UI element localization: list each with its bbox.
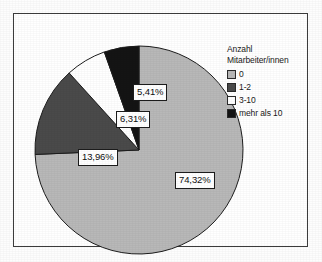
legend-swatch-icon [227, 70, 236, 79]
legend: Anzahl Mitarbeiter/innen 01-23-10mehr al… [227, 44, 319, 120]
legend-item-3-10: 3-10 [227, 94, 319, 106]
legend-swatch-icon [227, 96, 236, 105]
legend-item-1-2: 1-2 [227, 81, 319, 93]
legend-item-mehr-als-10: mehr als 10 [227, 107, 319, 119]
legend-swatch-icon [227, 109, 236, 118]
pie-slices [35, 46, 243, 254]
legend-item-0: 0 [227, 68, 319, 80]
legend-title-line-2: Mitarbeiter/innen [227, 55, 319, 66]
slice-label-3-10: 6,31% [116, 111, 150, 128]
pie-svg [34, 45, 244, 255]
legend-item-label: mehr als 10 [239, 109, 282, 118]
slice-label-0: 74,32% [175, 172, 215, 189]
legend-title-line-1: Anzahl [227, 44, 319, 55]
slice-label-mehr-als-10: 5,41% [133, 84, 167, 101]
pie-chart-figure: 74,32% 13,96% 6,31% 5,41% Anzahl Mitarbe… [0, 0, 322, 262]
legend-swatch-icon [227, 83, 236, 92]
legend-entries: 01-23-10mehr als 10 [227, 68, 319, 119]
chart-frame: 74,32% 13,96% 6,31% 5,41% Anzahl Mitarbe… [13, 13, 308, 247]
legend-item-label: 3-10 [239, 96, 256, 105]
legend-item-label: 0 [239, 70, 244, 79]
pie-chart-area: 74,32% 13,96% 6,31% 5,41% [34, 45, 244, 255]
slice-label-1-2: 13,96% [78, 149, 118, 166]
legend-item-label: 1-2 [239, 83, 251, 92]
